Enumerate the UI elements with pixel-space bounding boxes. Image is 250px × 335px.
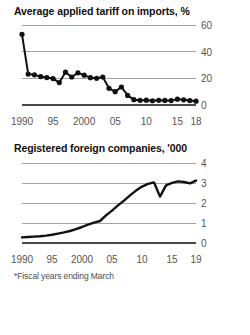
page-title: Average applied tariff on imports, % (0, 0, 250, 17)
x-tick-label: 10 (141, 115, 152, 128)
x-tick-label: 18 (190, 115, 201, 128)
x-tick-label: 2000 (71, 253, 93, 266)
chart-panel-companies: Registered foreign companies, '000 01234… (0, 137, 250, 281)
x-tick-label: 10 (136, 253, 147, 266)
panel-divider-spacer (0, 130, 250, 137)
chart-panel-tariff: Average applied tariff on imports, % 020… (0, 0, 250, 130)
plot-area-companies: 01234 (0, 154, 250, 253)
plot-area-tariff: 0204060 (0, 17, 250, 115)
x-tick-label: 95 (48, 115, 59, 128)
tariff-line-chart (0, 17, 250, 115)
x-tick-label: 95 (46, 253, 57, 266)
tariff-series-markers (19, 32, 198, 104)
companies-line-chart (0, 154, 250, 253)
x-tick-label: 15 (172, 115, 183, 128)
gridlines-tariff (22, 25, 196, 105)
x-axis-labels-companies: 199095200005101519 (0, 253, 250, 268)
companies-series-line (22, 181, 196, 238)
x-tick-label: 05 (106, 253, 117, 266)
x-tick-label: 2000 (73, 115, 95, 128)
x-tick-label: 15 (166, 253, 177, 266)
tariff-series-line (22, 34, 196, 101)
footnote: *Fiscal years ending March (0, 268, 250, 281)
gridlines-companies (22, 163, 196, 243)
x-tick-label: 1990 (11, 253, 33, 266)
x-tick-label: 05 (110, 115, 121, 128)
page-title-secondary: Registered foreign companies, '000 (0, 137, 250, 154)
x-tick-label: 1990 (11, 115, 33, 128)
x-axis-labels-tariff: 199095200005101518 (0, 115, 250, 130)
x-tick-label: 19 (190, 253, 201, 266)
